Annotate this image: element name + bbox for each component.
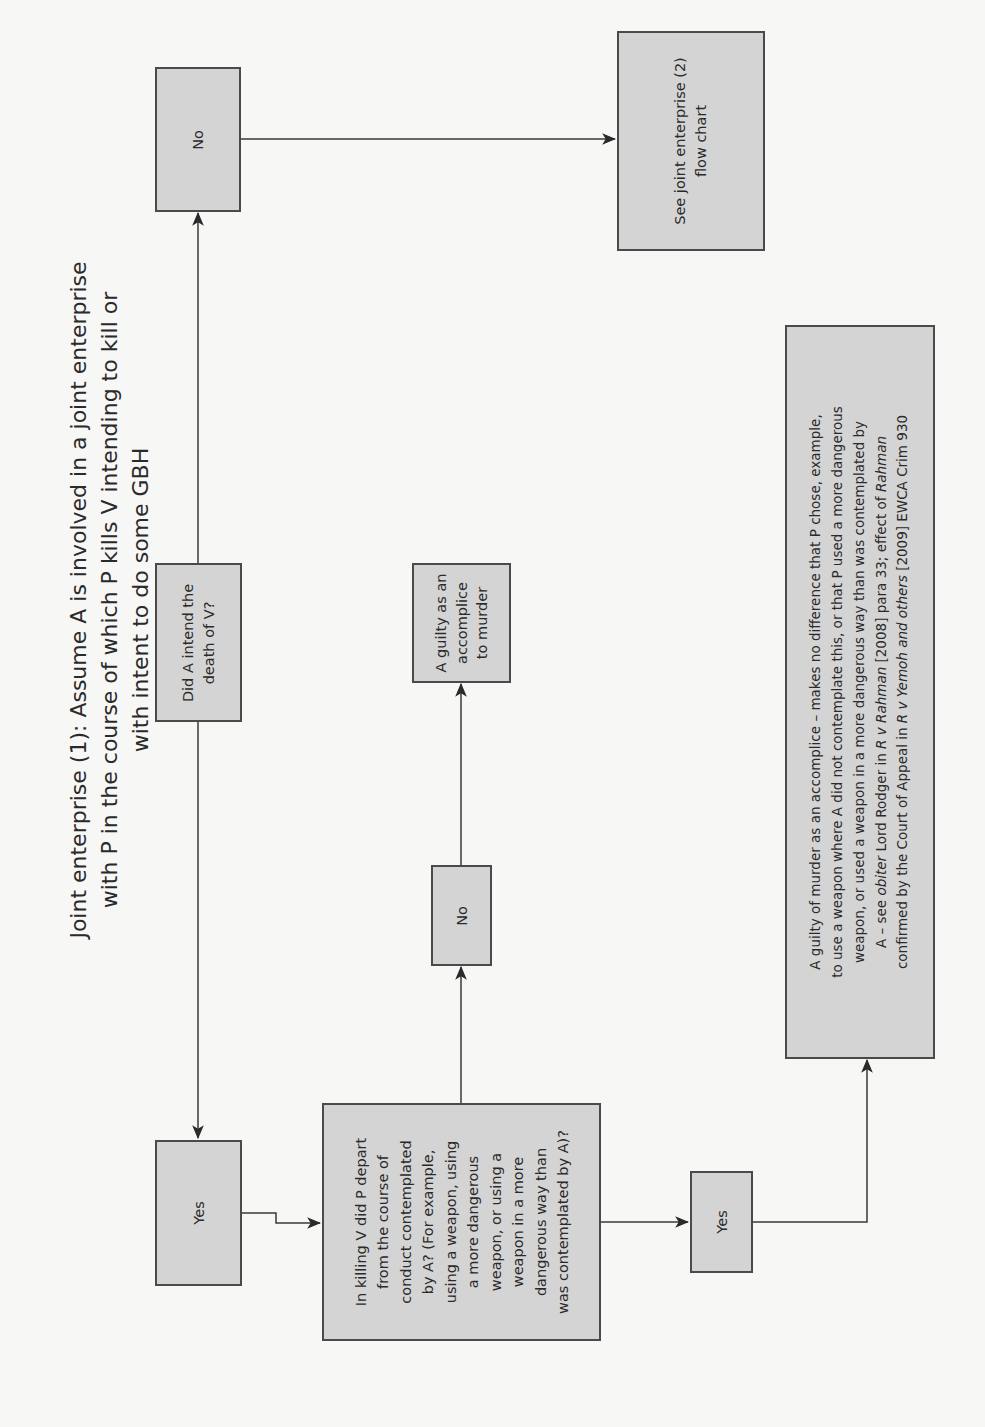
long-line-4-case-rahman: R v Rahman [873, 667, 889, 749]
depart-line-1: In killing V did P depart [349, 1130, 371, 1314]
answer-yes-right-box: Yes [690, 1171, 753, 1273]
answer-no-mid-box: No [431, 865, 492, 966]
result-long-text: A guilty of murder as an accomplice – ma… [805, 406, 914, 978]
title-line-1: Joint enterprise (1): Assume A is involv… [64, 261, 95, 938]
question-depart-box: In killing V did P depart from the cours… [322, 1103, 601, 1341]
accomplice-line-1: A guilty as an [431, 574, 452, 673]
depart-line-5: using a weapon, using [439, 1130, 461, 1314]
depart-line-8: weapon in a more [506, 1130, 528, 1314]
depart-line-10: was contemplated by A)? [551, 1130, 573, 1314]
intend-line-2: death of V? [199, 583, 220, 701]
depart-line-3: conduct contemplated [394, 1130, 416, 1314]
question-intend-death-box: Did A intend the death of V? [155, 563, 242, 722]
long-line-4-a: A – see [873, 896, 889, 949]
see-joint-enterprise-2-box: See joint enterprise (2) flow chart [617, 31, 765, 251]
depart-line-9: dangerous way than [529, 1130, 551, 1314]
long-line-1: A guilty of murder as an accomplice – ma… [805, 406, 827, 978]
title-line-2: with P in the course of which P kills V … [95, 261, 126, 938]
answer-yes-right-label: Yes [711, 1210, 732, 1233]
long-line-4: A – see obiter Lord Rodger in R v Rahman… [871, 406, 893, 978]
answer-no-top-box: No [155, 67, 241, 212]
question-depart-text: In killing V did P depart from the cours… [349, 1130, 574, 1314]
long-line-5: confirmed by the Court of Appeal in R v … [893, 406, 915, 978]
accomplice-line-3: to murder [472, 574, 493, 673]
depart-line-6: a more dangerous [462, 1130, 484, 1314]
long-line-3: weapon, or used a weapon in a more dange… [849, 406, 871, 978]
flowchart-title: Joint enterprise (1): Assume A is involv… [64, 261, 156, 938]
depart-line-7: weapon, or using a [484, 1130, 506, 1314]
long-line-4-obiter: obiter [873, 856, 889, 896]
answer-yes-left-box: Yes [155, 1140, 242, 1286]
accomplice-line-2: accomplice [451, 574, 472, 673]
long-line-4-rahman: Rahman [873, 436, 889, 492]
see-je2-line-2: flow chart [691, 57, 712, 225]
result-accomplice-box: A guilty as an accomplice to murder [412, 563, 511, 683]
result-accomplice-text: A guilty as an accomplice to murder [431, 574, 493, 673]
result-long-box: A guilty of murder as an accomplice – ma… [785, 325, 935, 1059]
long-line-5-a: confirmed by the Court of Appeal in [895, 723, 911, 969]
edge-yes-to-result [752, 1060, 867, 1222]
see-joint-enterprise-2-text: See joint enterprise (2) flow chart [670, 57, 711, 225]
intend-line-1: Did A intend the [178, 583, 199, 701]
edge-yes-to-depart [241, 1213, 320, 1223]
long-line-5-b: [2009] EWCA Crim 930 [895, 415, 911, 575]
answer-yes-left-label: Yes [188, 1201, 209, 1224]
long-line-2: to use a weapon where A did not contempl… [827, 406, 849, 978]
answer-no-top-label: No [188, 130, 209, 150]
long-line-5-case-yemoh: R v Yemoh and others [895, 575, 911, 723]
depart-line-2: from the course of [372, 1130, 394, 1314]
see-je2-line-1: See joint enterprise (2) [670, 57, 691, 225]
question-intend-death-text: Did A intend the death of V? [178, 583, 219, 701]
answer-no-mid-label: No [451, 906, 472, 926]
title-line-3: with intent to do some GBH [125, 261, 156, 938]
long-line-4-b: Lord Rodger in [873, 749, 889, 856]
long-line-4-c: [2008] para 33; effect of [873, 492, 889, 667]
depart-line-4: by A? (For example, [417, 1130, 439, 1314]
